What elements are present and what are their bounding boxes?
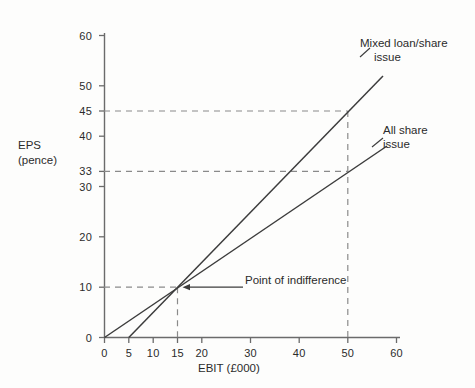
x-tick-label-0: 0 [101, 347, 107, 359]
y-axis-ticks [99, 36, 104, 338]
y-axis-title: EPS (pence) [18, 138, 57, 168]
annotation-label-point-of-indifference: Point of indifference [245, 274, 346, 286]
y-tick-label-50: 50 [70, 80, 92, 92]
x-axis-title: EBIT (£000) [198, 362, 260, 374]
y-tick-label-33: 33 [70, 165, 92, 177]
leader-all-share [372, 138, 383, 147]
series-label-mixed-line2: issue [374, 50, 448, 64]
y-tick-label-45: 45 [70, 105, 92, 117]
y-tick-label-60: 60 [70, 30, 92, 42]
y-tick-label-10: 10 [70, 281, 92, 293]
series-line-mixed-loan-share-issue [129, 76, 383, 338]
y-tick-label-30: 30 [70, 181, 92, 193]
series-label-mixed-loan-share-issue: Mixed loan/share issue [360, 36, 448, 64]
x-tick-label-40: 40 [293, 347, 306, 359]
series-label-allshare-line1: All share [383, 123, 428, 137]
y-tick-label-20: 20 [70, 231, 92, 243]
x-tick-label-20: 20 [195, 347, 208, 359]
series-label-mixed-line1: Mixed loan/share [360, 36, 448, 50]
y-axis-title-line1: EPS [18, 138, 57, 153]
annotation-point-of-indifference [183, 284, 244, 290]
x-tick-label-5: 5 [126, 347, 132, 359]
x-axis-ticks [105, 338, 397, 344]
series-line-all-share-issue [105, 146, 388, 338]
series-label-allshare-line2: issue [383, 137, 428, 151]
x-tick-label-60: 60 [390, 347, 403, 359]
y-axis-title-line2: (pence) [18, 153, 57, 168]
axis-lines [104, 33, 400, 338]
chart-figure: 60 50 45 40 33 30 20 10 0 0 5 10 15 20 3… [0, 0, 475, 388]
x-tick-label-50: 50 [341, 347, 354, 359]
y-tick-label-40: 40 [70, 130, 92, 142]
y-tick-label-0: 0 [70, 332, 92, 344]
annotation-arrowhead-icon [183, 284, 191, 290]
guide-lines [104, 111, 348, 338]
x-tick-label-15: 15 [171, 347, 184, 359]
data-series [105, 76, 388, 338]
x-tick-label-10: 10 [147, 347, 160, 359]
series-label-all-share-issue: All share issue [383, 123, 428, 151]
x-tick-label-30: 30 [244, 347, 257, 359]
